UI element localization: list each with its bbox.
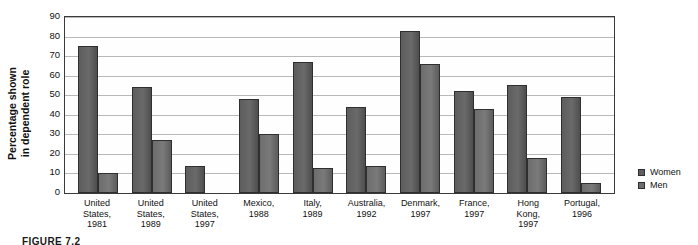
category-label-line: 1981	[70, 219, 124, 230]
category-label-line: 1997	[393, 209, 447, 220]
category-label-line: States,	[124, 209, 178, 220]
category-label-line: 1997	[178, 219, 232, 230]
bar-group	[286, 17, 340, 193]
bar-group	[178, 17, 232, 193]
category-label-line: Hong	[501, 198, 555, 209]
category-label-line: 1989	[124, 219, 178, 230]
y-axis-title-line-1: Percentage shown	[6, 67, 19, 160]
y-tick-10: 10	[49, 168, 60, 178]
category-label: HongKong,1997	[501, 198, 555, 242]
legend-swatch-icon	[638, 182, 645, 189]
category-label-line: 1989	[286, 209, 340, 220]
category-label-line: Portugal,	[555, 198, 609, 209]
bar-men[interactable]	[313, 168, 333, 193]
category-label-line: United	[178, 198, 232, 209]
bar-women[interactable]	[132, 87, 152, 193]
y-tick-90: 90	[49, 11, 60, 21]
bar-women[interactable]	[507, 85, 527, 193]
category-label-line: Kong,	[501, 209, 555, 220]
category-label: UnitedStates,1989	[124, 198, 178, 242]
bar-women[interactable]	[293, 62, 313, 193]
legend-swatch-icon	[638, 169, 645, 176]
y-tick-50: 50	[49, 89, 60, 99]
y-tick-70: 70	[49, 50, 60, 60]
category-label: Portugal,1996	[555, 198, 609, 242]
bar-women[interactable]	[185, 166, 205, 193]
bar-men[interactable]	[152, 140, 172, 193]
legend-label: Men	[650, 181, 668, 190]
y-tick-40: 40	[49, 109, 60, 119]
bar-men[interactable]	[420, 64, 440, 193]
category-label-line: 1992	[340, 209, 394, 220]
category-label-line: States,	[178, 209, 232, 220]
bar-group	[501, 17, 555, 193]
category-label-line: Mexico,	[232, 198, 286, 209]
legend: WomenMen	[638, 168, 698, 194]
category-label-line: United	[124, 198, 178, 209]
bar-men[interactable]	[474, 109, 494, 193]
category-label-line: 1988	[232, 209, 286, 220]
y-tick-80: 80	[49, 31, 60, 41]
category-label-line: France,	[447, 198, 501, 209]
category-label-line: States,	[70, 209, 124, 220]
bar-men[interactable]	[259, 134, 279, 193]
legend-item-women[interactable]: Women	[638, 168, 698, 177]
bar-men[interactable]	[366, 166, 386, 193]
bar-women[interactable]	[400, 31, 420, 193]
bar-men[interactable]	[527, 158, 547, 193]
bar-group	[71, 17, 125, 193]
category-label: Australia,1992	[340, 198, 394, 242]
y-tick-0: 0	[55, 187, 60, 197]
y-tick-20: 20	[49, 148, 60, 158]
category-label-line: Denmark,	[393, 198, 447, 209]
y-tick-60: 60	[49, 70, 60, 80]
bar-women[interactable]	[454, 91, 474, 193]
bar-men[interactable]	[581, 183, 601, 193]
category-label: UnitedStates,1997	[178, 198, 232, 242]
bar-group	[340, 17, 394, 193]
figure-caption: FIGURE 7.2	[22, 236, 80, 245]
bar-group	[125, 17, 179, 193]
y-axis-title-line-2: in dependent role	[18, 67, 31, 160]
bar-group	[393, 17, 447, 193]
bar-group	[447, 17, 501, 193]
x-axis-category-labels: UnitedStates,1981UnitedStates,1989United…	[64, 198, 615, 242]
category-label: Italy,1989	[286, 198, 340, 242]
category-label-line: 1997	[501, 219, 555, 230]
y-tick-30: 30	[49, 129, 60, 139]
bar-women[interactable]	[561, 97, 581, 193]
y-axis-title: Percentage shown in dependent role	[0, 18, 36, 208]
plot-area	[64, 16, 615, 194]
category-label-line: 1997	[447, 209, 501, 220]
category-label-line: Italy,	[286, 198, 340, 209]
figure-container: Percentage shown in dependent role 01020…	[0, 0, 698, 245]
y-axis-tick-labels: 0102030405060708090	[38, 12, 62, 198]
category-label-line: 1996	[555, 209, 609, 220]
category-label: Denmark,1997	[393, 198, 447, 242]
bar-women[interactable]	[78, 46, 98, 193]
category-label: Mexico,1988	[232, 198, 286, 242]
bar-group	[554, 17, 608, 193]
bar-men[interactable]	[98, 173, 118, 193]
bar-group	[232, 17, 286, 193]
bar-women[interactable]	[346, 107, 366, 193]
category-label: France,1997	[447, 198, 501, 242]
legend-item-men[interactable]: Men	[638, 181, 698, 190]
bar-women[interactable]	[239, 99, 259, 193]
category-label-line: Australia,	[340, 198, 394, 209]
bar-groups	[65, 17, 614, 193]
legend-label: Women	[650, 168, 681, 177]
category-label-line: United	[70, 198, 124, 209]
